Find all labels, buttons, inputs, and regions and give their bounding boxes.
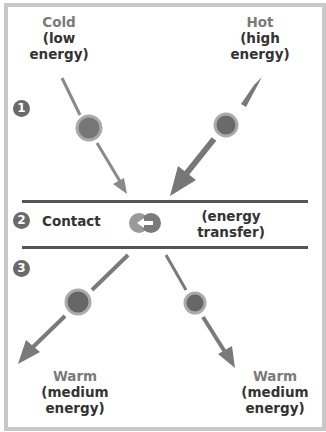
energy-transfer-label: (energy transfer) — [186, 208, 276, 240]
warm-right-label: Warm (medium energy) — [232, 368, 318, 416]
step-1-badge: 1 — [13, 100, 30, 117]
step-3-badge: 3 — [13, 260, 30, 277]
warm-right-arrow — [166, 255, 235, 368]
cold-label: Cold (low energy) — [26, 14, 92, 62]
warm-left-label: Warm (medium energy) — [32, 368, 118, 416]
contact-label: Contact — [42, 213, 101, 229]
contact-bottom-line — [22, 246, 308, 249]
cold-particle-arrow — [62, 78, 127, 194]
warm-left-arrow — [18, 255, 128, 364]
hot-particle-arrow — [170, 77, 262, 196]
step-2-badge: 2 — [13, 212, 30, 229]
colliding-particles-icon — [129, 213, 161, 233]
contact-top-line — [22, 200, 308, 203]
hot-label: Hot (high energy) — [222, 14, 298, 62]
